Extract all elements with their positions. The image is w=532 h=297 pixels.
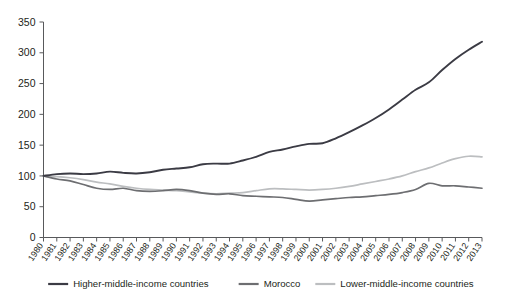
y-tick-label: 0 (30, 231, 36, 243)
y-tick-label: 250 (18, 77, 36, 89)
series-group (44, 42, 483, 201)
y-axis: 050100150200250300350 (18, 16, 44, 244)
y-tick-label: 300 (18, 46, 36, 58)
y-tick-group: 050100150200250300350 (18, 16, 44, 244)
line-chart-canvas: 050100150200250300350 198019811982198319… (0, 0, 532, 297)
x-axis: 1980198119821983198419851986198719881989… (26, 238, 484, 263)
y-tick-label: 350 (18, 16, 36, 28)
legend-label: Higher-middle-income countries (73, 278, 209, 289)
series-line (44, 176, 483, 201)
y-tick-label: 200 (18, 108, 36, 120)
x-tick-label: 2013 (464, 241, 483, 263)
series-line (44, 156, 483, 194)
series-line (44, 42, 483, 176)
chart-figure: 050100150200250300350 198019811982198319… (0, 0, 532, 297)
x-tick-group: 1980198119821983198419851986198719881989… (26, 238, 484, 263)
y-tick-label: 100 (18, 170, 36, 182)
y-tick-label: 50 (24, 200, 36, 212)
legend-label: Lower-middle-income countries (340, 278, 474, 289)
y-tick-label: 150 (18, 139, 36, 151)
legend-label: Morocco (264, 278, 301, 289)
chart-legend: Higher-middle-income countriesMoroccoLow… (48, 278, 474, 289)
